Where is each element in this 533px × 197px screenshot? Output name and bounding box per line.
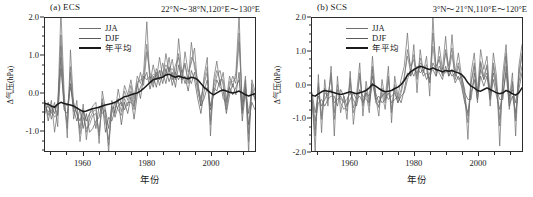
panel-b-legend: JJA DJF 年平均 <box>346 23 399 53</box>
series-line-2 <box>45 57 255 132</box>
x-tick-mark <box>414 152 415 156</box>
panel-a-x-axis-label: 年份 <box>44 172 256 186</box>
y-tick-label: -1.0 <box>293 113 306 123</box>
x-tick-mark <box>83 152 84 156</box>
panel-a-y-axis: Δ气压(hPa) -1.00.01.02.0 <box>0 17 44 152</box>
x-minor-tick <box>333 152 334 155</box>
panel-a-header: (a) ECS 22°N～38°N,120°E～130°E <box>0 2 264 16</box>
x-minor-tick <box>50 152 51 155</box>
x-minor-tick <box>510 152 511 155</box>
panel-a-region-title: 22°N～38°N,120°E～130°E <box>161 2 260 14</box>
legend-swatch-djf <box>346 38 368 39</box>
series-line-1 <box>312 33 522 136</box>
legend-item-jja: JJA <box>346 23 399 33</box>
panel-b-y-axis: Δ气压(hPa) -2.0-1.00.01.02.0 <box>267 17 311 152</box>
panel-a-y-axis-label: Δ气压(hPa) <box>4 50 15 120</box>
x-minor-tick <box>430 152 431 155</box>
panel-b-y-axis-label: Δ气压(hPa) <box>271 50 282 120</box>
panel-b-plot-area: JJA DJF 年平均 <box>311 17 523 152</box>
y-tick-label: 1.0 <box>295 46 306 56</box>
y-tick-label: 1.0 <box>28 50 39 60</box>
x-tick-label: 2000 <box>203 158 220 168</box>
series-line-0 <box>312 18 522 151</box>
x-minor-tick <box>398 152 399 155</box>
x-minor-tick <box>179 152 180 155</box>
x-minor-tick <box>227 152 228 155</box>
panel-b-header: (b) SCS 3°N～21°N,110°E～120°E <box>267 2 531 16</box>
panel-a-plot-area: JJA DJF 年平均 <box>44 17 256 152</box>
x-tick-label: 1980 <box>138 158 155 168</box>
x-minor-tick <box>317 152 318 155</box>
x-tick-mark <box>211 152 212 156</box>
legend-item-jja: JJA <box>79 23 132 33</box>
x-tick-mark <box>478 152 479 156</box>
y-tick-label: -1.0 <box>26 126 39 136</box>
panel-scs: (b) SCS 3°N～21°N,110°E～120°E Δ气压(hPa) -2… <box>267 0 533 197</box>
x-tick-label: 2000 <box>470 158 487 168</box>
panel-a-tag: (a) ECS <box>50 2 80 12</box>
legend-swatch-annual-mean <box>79 47 101 49</box>
y-tick-label: -2.0 <box>293 147 306 157</box>
x-tick-mark <box>147 152 148 156</box>
x-minor-tick <box>131 152 132 155</box>
x-minor-tick <box>366 152 367 155</box>
legend-label-djf: DJF <box>372 33 386 43</box>
x-tick-label: 1960 <box>74 158 91 168</box>
y-tick-label: 0.0 <box>28 88 39 98</box>
legend-item-annual-mean: 年平均 <box>79 43 132 53</box>
legend-item-annual-mean: 年平均 <box>346 43 399 53</box>
x-minor-tick <box>494 152 495 155</box>
x-tick-label: 1960 <box>341 158 358 168</box>
y-tick-label: 0.0 <box>295 80 306 90</box>
legend-swatch-djf <box>79 38 101 39</box>
legend-label-annual-mean: 年平均 <box>372 43 399 53</box>
panel-b-x-axis-label: 年份 <box>311 172 523 186</box>
x-minor-tick <box>115 152 116 155</box>
legend-swatch-jja <box>79 28 101 29</box>
legend-swatch-annual-mean <box>346 47 368 49</box>
panel-a-x-axis: 年份 196019802000 <box>44 152 256 194</box>
legend-label-jja: JJA <box>372 23 385 33</box>
x-minor-tick <box>66 152 67 155</box>
x-minor-tick <box>163 152 164 155</box>
panel-a-series-canvas <box>45 18 255 151</box>
panel-b-region-title: 3°N～21°N,110°E～120°E <box>433 2 527 14</box>
x-tick-mark <box>350 152 351 156</box>
panel-a-legend: JJA DJF 年平均 <box>79 23 132 53</box>
legend-label-djf: DJF <box>105 33 119 43</box>
x-minor-tick <box>243 152 244 155</box>
x-minor-tick <box>382 152 383 155</box>
y-tick-label: 2.0 <box>295 12 306 22</box>
x-minor-tick <box>195 152 196 155</box>
y-tick-label: 2.0 <box>28 12 39 22</box>
panel-ecs: (a) ECS 22°N～38°N,120°E～130°E Δ气压(hPa) -… <box>0 0 266 197</box>
figure-root: (a) ECS 22°N～38°N,120°E～130°E Δ气压(hPa) -… <box>0 0 533 197</box>
legend-item-djf: DJF <box>79 33 132 43</box>
panel-b-x-axis: 年份 196019802000 <box>311 152 523 194</box>
legend-item-djf: DJF <box>346 33 399 43</box>
legend-swatch-jja <box>346 28 368 29</box>
x-minor-tick <box>462 152 463 155</box>
legend-label-jja: JJA <box>105 23 118 33</box>
panel-b-series-canvas <box>312 18 522 151</box>
x-minor-tick <box>99 152 100 155</box>
panel-b-tag: (b) SCS <box>317 2 347 12</box>
x-minor-tick <box>446 152 447 155</box>
x-tick-label: 1980 <box>405 158 422 168</box>
legend-label-annual-mean: 年平均 <box>105 43 132 53</box>
